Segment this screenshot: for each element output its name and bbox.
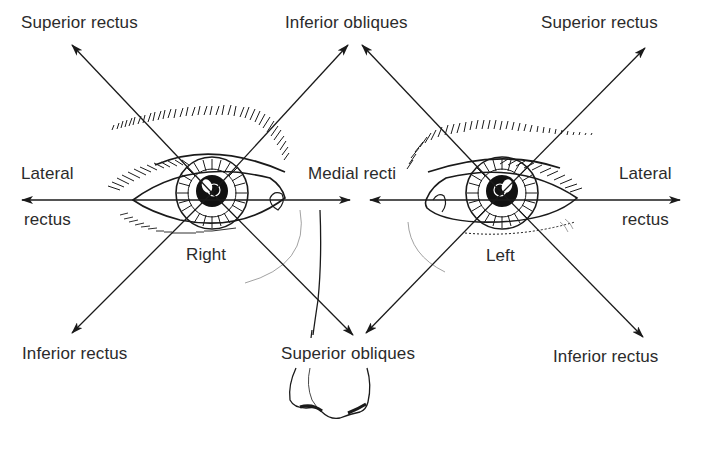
label-medial-recti: Medial recti — [308, 165, 396, 182]
label-superior-obliques: Superior obliques — [281, 345, 415, 362]
label-left-rectus: rectus — [622, 211, 669, 228]
arrow-left-superior-obliques — [366, 193, 502, 333]
left-eyebrow-icon — [407, 120, 592, 169]
label-right-superior-rectus: Superior rectus — [21, 14, 138, 31]
nose-drawing — [290, 210, 370, 418]
arrow-right-superior-rectus — [72, 45, 212, 193]
muscle-action-arrows — [22, 45, 680, 337]
diagram-artwork — [0, 0, 701, 449]
label-right-rectus: rectus — [24, 211, 71, 228]
eye-muscle-diagram: Superior rectus Inferior obliques Superi… — [0, 0, 701, 449]
label-right-inferior-rectus: Inferior rectus — [22, 345, 127, 362]
label-right-lateral: Lateral — [21, 165, 74, 182]
label-left-eye: Left — [486, 247, 515, 264]
arrow-right-superior-obliques — [212, 193, 353, 335]
label-inferior-obliques: Inferior obliques — [285, 14, 408, 31]
label-left-inferior-rectus: Inferior rectus — [553, 348, 658, 365]
label-right-eye: Right — [186, 246, 226, 263]
label-left-superior-rectus: Superior rectus — [541, 14, 658, 31]
right-eyebrow-icon — [112, 105, 289, 160]
label-left-lateral: Lateral — [619, 165, 672, 182]
